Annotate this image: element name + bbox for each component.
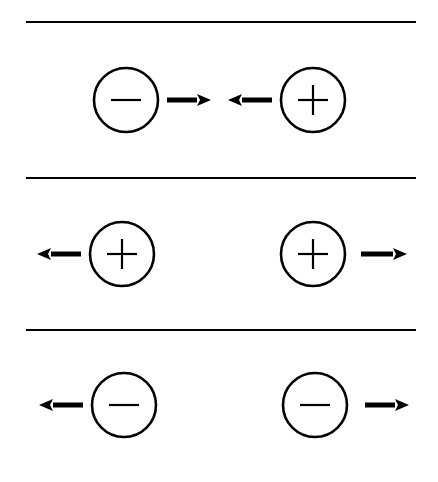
positive-charge-particle — [281, 222, 345, 286]
positive-charge-particle — [281, 68, 345, 132]
arrow-left-icon — [37, 248, 81, 260]
row-negative-charges-repel — [39, 373, 409, 437]
negative-charge-particle — [94, 68, 158, 132]
arrow-right-icon — [167, 94, 211, 106]
arrow-right-icon — [365, 399, 409, 411]
row-positive-charges-repel — [37, 222, 407, 286]
negative-charge-particle — [283, 373, 347, 437]
arrow-left-icon — [39, 399, 83, 411]
arrow-left-icon — [228, 94, 272, 106]
row-opposite-charges-attract — [94, 68, 345, 132]
positive-charge-particle — [90, 222, 154, 286]
negative-charge-particle — [92, 373, 156, 437]
arrow-right-icon — [361, 248, 407, 260]
charge-interaction-diagram — [0, 0, 438, 482]
